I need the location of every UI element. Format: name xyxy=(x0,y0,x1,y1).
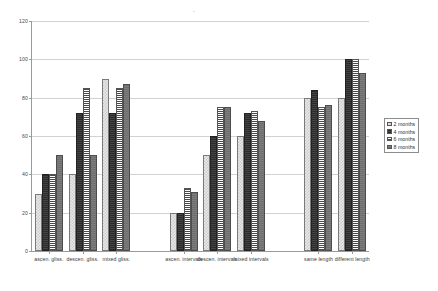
bar[interactable] xyxy=(359,73,366,251)
bar[interactable] xyxy=(116,88,123,251)
bar-group: ascen. gliss. xyxy=(32,21,66,251)
plot-area: 020406080100120 ascen. gliss.descen. gli… xyxy=(31,21,369,252)
bar[interactable] xyxy=(90,155,97,251)
bar[interactable] xyxy=(102,79,109,252)
bar-group: mixed intervals xyxy=(234,21,268,251)
legend-swatch-icon xyxy=(387,137,392,142)
x-tick-mark xyxy=(184,251,185,254)
bar[interactable] xyxy=(76,113,83,251)
bar[interactable] xyxy=(251,111,258,251)
x-tick-mark xyxy=(251,251,252,254)
bar[interactable] xyxy=(177,213,184,251)
y-tick-label-120: 120 xyxy=(19,18,32,24)
legend-item[interactable]: 6 months xyxy=(387,136,415,142)
legend-label: 4 months xyxy=(394,129,416,135)
bar[interactable] xyxy=(304,98,311,251)
legend-swatch-icon xyxy=(387,122,392,127)
x-tick-mark xyxy=(217,251,218,254)
bar[interactable] xyxy=(224,107,231,251)
x-tick-mark xyxy=(49,251,50,254)
legend-swatch-icon xyxy=(387,145,392,150)
legend-item[interactable]: 2 months xyxy=(387,121,415,127)
bar[interactable] xyxy=(352,59,359,251)
bar[interactable] xyxy=(210,136,217,251)
bar[interactable] xyxy=(109,113,116,251)
bar[interactable] xyxy=(83,88,90,251)
bar[interactable] xyxy=(56,155,63,251)
y-tick-label-40: 40 xyxy=(22,171,32,177)
bar[interactable] xyxy=(237,136,244,251)
bar-group: mixed gliss. xyxy=(99,21,133,251)
bar[interactable] xyxy=(311,90,318,251)
bar-group: same length xyxy=(302,21,336,251)
bar[interactable] xyxy=(325,105,332,251)
legend-label: 8 months xyxy=(394,144,416,150)
bar[interactable] xyxy=(42,174,49,251)
bar[interactable] xyxy=(35,194,42,252)
bar-group: different length xyxy=(335,21,369,251)
y-tick-label-100: 100 xyxy=(19,56,32,62)
bar[interactable] xyxy=(69,174,76,251)
bar-group: descen. gliss. xyxy=(66,21,100,251)
legend-item[interactable]: 4 months xyxy=(387,129,415,135)
legend-item[interactable]: 8 months xyxy=(387,144,415,150)
x-tick-mark xyxy=(352,251,353,254)
bar[interactable] xyxy=(49,174,56,251)
bar[interactable] xyxy=(338,98,345,251)
x-axis-label: mixed intervals xyxy=(228,256,274,263)
x-tick-mark xyxy=(318,251,319,254)
y-tick-label-60: 60 xyxy=(22,133,32,139)
bar[interactable] xyxy=(184,188,191,251)
bar[interactable] xyxy=(345,59,352,251)
top-tick-mark: - xyxy=(193,8,195,14)
bar-group: ascen. intervals xyxy=(167,21,201,251)
bar[interactable] xyxy=(318,107,325,251)
bar-chart: - 020406080100120 ascen. gliss.descen. g… xyxy=(0,0,438,291)
y-tick-label-0: 0 xyxy=(25,248,32,254)
x-axis-label: mixed gliss. xyxy=(93,256,139,263)
legend-swatch-icon xyxy=(387,129,392,134)
bar-groups: ascen. gliss.descen. gliss.mixed gliss.a… xyxy=(32,21,369,251)
bar[interactable] xyxy=(191,192,198,251)
bar[interactable] xyxy=(203,155,210,251)
y-tick-label-80: 80 xyxy=(22,95,32,101)
bar[interactable] xyxy=(123,84,130,251)
y-tick-label-20: 20 xyxy=(22,210,32,216)
bar[interactable] xyxy=(217,107,224,251)
legend-label: 6 months xyxy=(394,136,416,142)
legend-label: 2 months xyxy=(394,121,416,127)
bar[interactable] xyxy=(258,121,265,251)
bar-group: descen. intervals xyxy=(201,21,235,251)
x-tick-mark xyxy=(83,251,84,254)
legend: 2 months4 months6 months8 months xyxy=(384,118,419,153)
bar[interactable] xyxy=(244,113,251,251)
bar[interactable] xyxy=(170,213,177,251)
x-tick-mark xyxy=(116,251,117,254)
x-axis-label: different length xyxy=(329,256,375,263)
